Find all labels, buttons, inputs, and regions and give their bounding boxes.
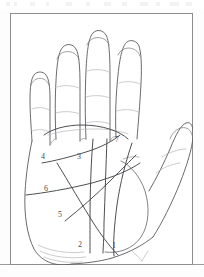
scan-smudge — [156, 2, 160, 6]
line-label-7: 7 — [115, 136, 119, 144]
thumb-web-crease — [123, 157, 139, 159]
palm-drawing — [10, 13, 193, 265]
index-finger-crease-2 — [117, 110, 138, 112]
middle-finger-crease-3 — [86, 122, 110, 124]
line-label-4: 4 — [41, 153, 45, 161]
scan-smudge — [140, 2, 148, 6]
thumb-tip-fold — [132, 251, 142, 261]
middle-finger-crease-1 — [87, 70, 109, 72]
line-4-diagonal — [57, 163, 118, 255]
ring-finger-outline — [55, 45, 80, 141]
little-finger-tip — [31, 78, 49, 85]
page-canvas: 1 2 3 4 5 6 7 — [0, 0, 204, 277]
index-finger-crease-1 — [119, 82, 140, 84]
scan-smudge — [66, 2, 72, 6]
web-little-ring — [50, 139, 56, 145]
scan-smudge — [6, 2, 10, 6]
thumb-outline — [149, 123, 193, 237]
thumb-tip-fold-2 — [142, 251, 148, 261]
middle-finger-crease-2 — [86, 96, 110, 98]
index-finger-outline — [116, 41, 142, 139]
scan-smudge — [86, 2, 90, 6]
scan-smudge — [30, 2, 35, 6]
little-finger-crease-1 — [32, 108, 49, 110]
scan-smudge — [170, 2, 179, 6]
line-3-vertical — [90, 139, 93, 253]
scan-smudge — [104, 2, 111, 6]
palm-left-edge — [25, 141, 72, 265]
thenar-eminence-arc — [105, 161, 148, 252]
line-label-5: 5 — [58, 211, 62, 219]
line-1-curve — [114, 143, 132, 256]
scan-smudge — [46, 2, 49, 6]
line-label-1: 1 — [112, 242, 116, 250]
line-label-2: 2 — [78, 241, 82, 249]
ring-finger-crease-1 — [57, 86, 79, 88]
thumb-crease-1 — [162, 149, 186, 157]
scan-smudge — [122, 2, 127, 6]
line-label-6: 6 — [44, 185, 48, 193]
line-label-3: 3 — [77, 153, 81, 161]
scan-smudge — [186, 2, 192, 6]
line-2-vertical — [103, 139, 107, 253]
web-ring-middle — [80, 138, 86, 141]
ring-finger-crease-2 — [56, 112, 80, 114]
scan-smudge — [14, 2, 17, 6]
thumb-tip — [170, 128, 192, 139]
scan-artifact-strip — [0, 0, 204, 9]
line-7-heart — [42, 135, 120, 163]
palm-figure — [10, 13, 193, 265]
middle-finger-outline — [85, 31, 110, 141]
little-finger-crease-2 — [32, 130, 50, 132]
